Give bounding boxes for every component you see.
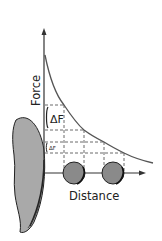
x-axis-arrow-icon [139, 171, 146, 176]
force-distance-diagram: Force Distance ΔF ΔF [0, 0, 162, 241]
x-axis [44, 171, 146, 176]
ball-2 [102, 162, 124, 184]
large-body [13, 118, 45, 233]
ball-1 [63, 162, 85, 184]
delta-f-bracket-small [46, 143, 47, 152]
y-axis-label: Force [29, 75, 43, 106]
y-axis-arrow-icon [42, 28, 47, 35]
force-curve [45, 55, 153, 163]
delta-f-label-large: ΔF [50, 113, 64, 126]
x-axis-label: Distance [69, 189, 119, 203]
delta-f-bracket-large [47, 107, 49, 128]
delta-f-label-small: ΔF [49, 145, 56, 151]
